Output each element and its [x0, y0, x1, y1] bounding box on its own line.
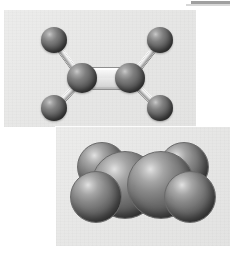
ball-and-stick-stage [4, 10, 196, 127]
sphere-hydrogen-front-left [70, 171, 122, 223]
atom-carbon-right [115, 63, 145, 93]
atom-carbon-left [67, 63, 97, 93]
sphere-hydrogen-front-right [164, 171, 216, 223]
panel-ball-and-stick [4, 10, 196, 127]
atom-hydrogen-bottom-left [41, 95, 67, 121]
panel-space-filling [56, 127, 230, 246]
space-filling-stage [56, 127, 230, 246]
molecular-models-figure [0, 0, 230, 259]
atom-hydrogen-bottom-right [147, 95, 173, 121]
atom-hydrogen-top-right [147, 27, 173, 53]
page-edge-artifact-shade [186, 4, 230, 6]
atom-hydrogen-top-left [41, 27, 67, 53]
